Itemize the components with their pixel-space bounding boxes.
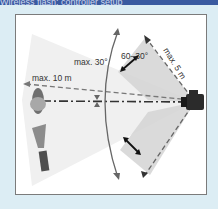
angle-max-label: max. 30° — [74, 57, 108, 67]
center-axis — [42, 101, 192, 102]
arrowhead — [113, 28, 120, 35]
angle-range-label: 60–30° — [121, 51, 148, 61]
arrowhead — [113, 173, 120, 180]
flash-distance-label: max. 10 m — [32, 73, 72, 83]
wireless-flash-diagram: max. 30° max. 10 m 60–30° max. 5 m — [0, 0, 218, 209]
